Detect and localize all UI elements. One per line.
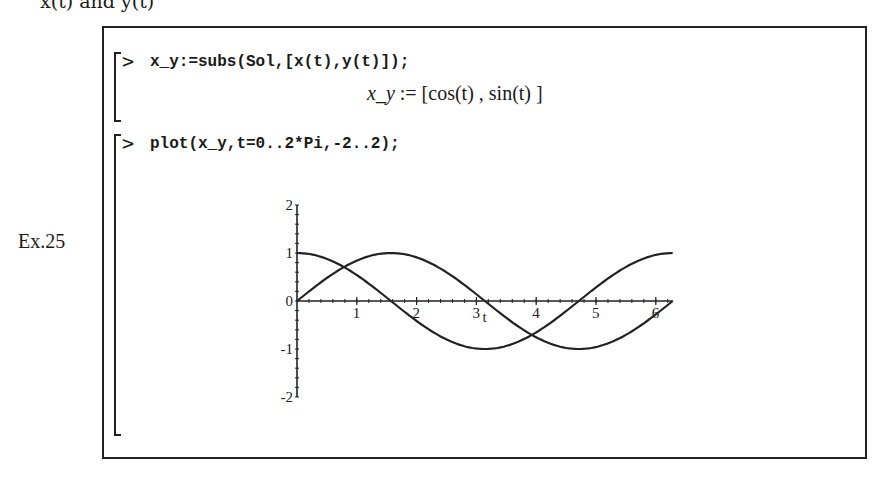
y-tick-label: 0: [286, 293, 294, 309]
y-tick-label: -2: [281, 389, 294, 405]
x-tick-label: 5: [592, 305, 600, 321]
plot-area[interactable]: 123456210-1-2t: [0, 0, 887, 478]
y-tick-label: -1: [281, 341, 294, 357]
y-tick-label: 2: [286, 197, 294, 213]
x-tick-label: 3: [472, 305, 480, 321]
y-tick-label: 1: [286, 245, 294, 261]
x-tick-label: 1: [353, 305, 361, 321]
x-tick-label: 4: [532, 305, 540, 321]
x-axis-label: t: [482, 309, 487, 325]
